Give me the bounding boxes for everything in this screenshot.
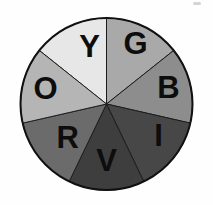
- wedge-label-yellow: Y: [79, 29, 100, 64]
- wedge-label-orange: O: [33, 71, 57, 106]
- wedge-label-blue: B: [157, 70, 179, 105]
- color-wheel: YGBIVRO: [0, 0, 213, 205]
- wedge-label-violet: V: [96, 143, 117, 178]
- wedge-label-red: R: [56, 120, 78, 155]
- wedge-label-indigo: I: [154, 118, 163, 153]
- scan-artifact-mark: [193, 2, 201, 5]
- color-wheel-figure: YGBIVRO: [0, 0, 213, 205]
- wedge-label-green: G: [123, 26, 147, 61]
